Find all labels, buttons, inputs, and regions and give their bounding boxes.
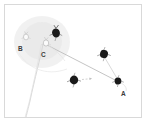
link-upper-right-to-a	[105, 58, 118, 80]
node-label-c: C	[41, 52, 46, 59]
dark-blob-center-lower	[67, 73, 81, 88]
arrow-from-center-blob	[82, 77, 92, 80]
dark-blob-node-a	[112, 75, 124, 87]
figure-root: B C A	[0, 0, 146, 122]
node-label-a: A	[121, 91, 126, 98]
dark-blob-right-upper	[97, 47, 111, 61]
scene-svg	[5, 5, 142, 118]
plot-frame: B C A	[4, 4, 142, 118]
node-label-b: B	[18, 46, 23, 53]
